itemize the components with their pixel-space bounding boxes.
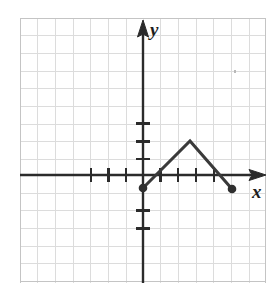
x-axis-label: x: [252, 182, 262, 201]
figure-container: y x: [0, 0, 278, 298]
left-endpoint-dot: [139, 184, 148, 193]
figure-background: [0, 0, 278, 298]
coordinate-graph: [0, 0, 278, 298]
scan-artifact-speck: [234, 70, 236, 73]
right-endpoint-dot: [228, 185, 237, 194]
y-axis-label: y: [150, 20, 158, 39]
